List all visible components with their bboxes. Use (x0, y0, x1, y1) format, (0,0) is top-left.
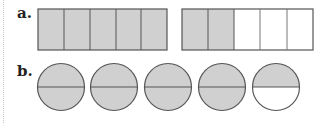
circle-two-halves-3 (145, 64, 192, 111)
rectangle-two-fifths (182, 9, 313, 50)
rectangle-five-fifths (38, 9, 167, 50)
circle-two-halves-1 (38, 64, 85, 111)
circle-two-halves-2 (91, 64, 138, 111)
circle-one-half (253, 63, 300, 110)
fraction-figures (0, 0, 326, 123)
circle-two-halves-4 (199, 64, 246, 111)
